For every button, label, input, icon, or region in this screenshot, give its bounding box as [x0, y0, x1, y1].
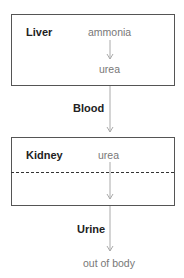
flow-arrows — [0, 0, 184, 278]
